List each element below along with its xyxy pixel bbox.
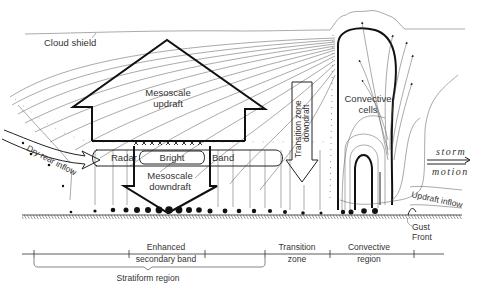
dry-rear-inflow-arrow: Dry rear inflow (2, 130, 100, 178)
storm-motion-arrow: storm motion (427, 146, 470, 177)
scale-segment-enhanced-2: secondary band (136, 254, 197, 264)
storm-cross-section-diagram: Cloud shield Mes (0, 0, 480, 289)
bright-label: Bright (160, 152, 185, 163)
precipitation-dots (22, 142, 378, 215)
mesoscale-downdraft-label-2: downdraft (149, 181, 191, 192)
gust-front: Gust Front (407, 208, 432, 242)
scale-segment-transition-2: zone (288, 254, 307, 264)
mesoscale-downdraft-label-1: Mesoscale (147, 170, 192, 181)
updraft-inflow: Updraft inflow (410, 186, 464, 210)
storm-motion-label-1: storm (436, 146, 466, 157)
gust-front-label-1: Gust (412, 222, 431, 232)
convective-cells: Convective cells (338, 22, 420, 210)
cloud-shield: Cloud shield (25, 11, 465, 48)
cloud-shield-label: Cloud shield (44, 37, 96, 48)
storm-motion-label-2: motion (432, 166, 469, 177)
convective-cells-label-2: cells (358, 104, 377, 115)
scale-segment-convective-1: Convective (348, 242, 390, 252)
radar-label: Radar (111, 152, 137, 163)
updraft-inflow-label: Updraft inflow (411, 189, 465, 210)
region-scale: Enhanced secondary band Transition zone … (22, 242, 444, 283)
scale-segment-convective-2: region (357, 254, 381, 264)
transition-zone-downdraft-arrow: Transition zone downdraft (286, 82, 318, 182)
ground (22, 215, 462, 219)
stratiform-region-label: Stratiform region (117, 273, 180, 283)
scale-segment-transition-1: Transition (278, 242, 315, 252)
mesoscale-updraft-arrow: Mesoscale updraft (73, 40, 265, 141)
mesoscale-updraft-label-1: Mesoscale (145, 87, 190, 98)
gust-front-label-2: Front (412, 232, 432, 242)
band-label: Band (212, 152, 234, 163)
transition-zone-downdraft-label-2: downdraft (301, 104, 311, 142)
convective-cells-label-1: Convective (345, 93, 392, 104)
scale-segment-enhanced-1: Enhanced (147, 242, 186, 252)
mesoscale-updraft-label-2: updraft (153, 98, 183, 109)
ice-crystal-marks (92, 141, 245, 145)
